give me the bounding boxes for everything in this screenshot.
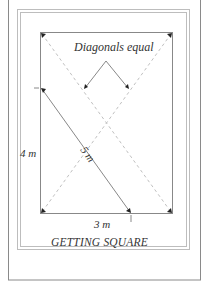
annotation-diagonals-equal: Diagonals equal <box>74 40 154 55</box>
label-vertical-side: 4 m <box>20 147 36 159</box>
hypotenuse-arrow-top <box>41 88 46 93</box>
pointer-chevron <box>85 61 128 88</box>
label-horizontal-side: 3 m <box>94 218 110 230</box>
arrowhead-top-right <box>167 33 172 38</box>
diagram-title: GETTING SQUARE <box>51 236 148 248</box>
arrowhead-bottom-left <box>41 208 46 213</box>
arrowhead-bottom-right <box>167 208 172 213</box>
arrowhead-top-left <box>41 33 46 38</box>
hypotenuse-arrow-bottom <box>126 208 131 213</box>
